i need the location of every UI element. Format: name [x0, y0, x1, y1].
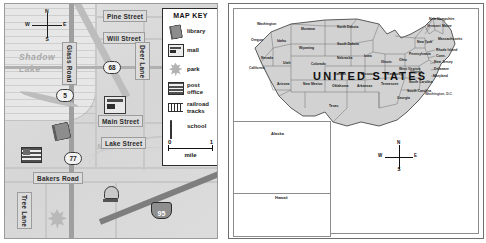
state-label-conn-: Conn.	[436, 54, 446, 58]
map-scale-bar: 0 1 mile	[167, 138, 214, 158]
route-shield-68: 68	[103, 61, 121, 74]
us-map-title: UNITED STATES	[313, 70, 427, 82]
state-label-utah: Utah	[283, 61, 291, 65]
scale-bar-graphic	[168, 145, 213, 151]
state-label-new-mexico: New Mexico	[303, 82, 322, 86]
route-shield-5: 5	[56, 89, 74, 102]
state-label-oregon: Oregon	[251, 38, 263, 42]
legend-entry-library: library	[167, 22, 214, 41]
state-label-washington: Washington	[257, 22, 276, 26]
state-label-illinois: Illinois	[381, 60, 392, 64]
town-map-compass-rose: N S W E	[27, 10, 67, 42]
bell-icon	[167, 119, 184, 135]
legend-entry-railroad-tracks: railroad tracks	[167, 98, 214, 117]
state-label-massachusetts: Massachusetts	[438, 37, 462, 41]
state-label-south-carolina: South Carolina	[407, 89, 431, 93]
state-label-nebraska: Nebraska	[337, 56, 352, 60]
railroad-tracks-icon	[167, 100, 184, 116]
shadow-lake-label: Shadow Lake	[19, 51, 55, 75]
state-label-montana: Montana	[301, 27, 315, 31]
post-office-icon	[21, 147, 42, 163]
scale-unit-label: mile	[167, 152, 214, 158]
legend-entry-post-office: post office	[167, 79, 214, 98]
compass-vertical-bar	[47, 13, 48, 38]
compass-east-label: E	[414, 153, 417, 158]
state-label-iowa: Iowa	[364, 54, 372, 58]
state-label-tennessee: Tennessee	[381, 82, 398, 86]
inset-label-hawaii: Hawaii	[275, 196, 288, 200]
state-label-arizona: Arizona	[277, 82, 289, 86]
state-label-pennsylvania: Pennsylvania	[409, 52, 431, 56]
legend-label-line2: office	[187, 89, 203, 95]
state-label-colorado: Colorado	[311, 62, 326, 66]
state-label-nevada: Nevada	[261, 56, 273, 60]
street-label-main-street: Main Street	[98, 115, 143, 127]
legend-entry-school: school	[167, 117, 214, 136]
legend-label-railroad-tracks: railroad tracks	[187, 101, 209, 115]
state-label-texas: Texas	[329, 104, 338, 108]
legend-label-mall: mall	[187, 47, 199, 54]
street-label-bakers-road: Bakers Road	[33, 172, 83, 184]
bell-icon	[104, 186, 118, 201]
state-label-new-jersey: New Jersey	[434, 60, 453, 64]
state-label-new-york: New York	[417, 40, 432, 44]
inset-label-alaska: Alaska	[271, 132, 284, 136]
state-label-ohio: Ohio	[399, 58, 407, 62]
lake-label-line1: Shadow	[19, 51, 55, 63]
legend-entry-mall: mall	[167, 41, 214, 60]
state-label-idaho: Idaho	[277, 39, 286, 43]
state-label-maryland: Maryland	[433, 74, 448, 78]
mall-roof-stripe	[107, 99, 123, 102]
book-icon	[167, 24, 184, 40]
street-label-deer-lane: Deer Lane	[135, 42, 150, 80]
legend-label-school: school	[187, 123, 206, 130]
state-label-north-dakota: North Dakota	[337, 25, 358, 29]
state-label-vermont: Vermont	[427, 24, 441, 28]
street-label-tree-lane: Tree Lane	[17, 192, 32, 229]
legend-label-line2: tracks	[187, 108, 205, 114]
legend-label-post-office: post office	[187, 82, 203, 96]
glass-road-roadway	[69, 4, 74, 239]
route-shield-77: 77	[64, 152, 82, 165]
mall-icon	[167, 43, 184, 59]
compass-east-label: E	[63, 21, 66, 27]
compass-north-label: N	[45, 8, 49, 14]
lake-label-line2: Lake	[19, 63, 55, 75]
compass-west-label: W	[25, 21, 30, 27]
legend-label-line1: post	[187, 82, 200, 88]
state-label-arkansas: Arkansas	[357, 84, 372, 88]
state-label-new-hampshire: New Hampshire	[429, 17, 454, 21]
legend-label-library: library	[187, 28, 205, 35]
mall-icon	[104, 96, 126, 114]
leaf-icon	[167, 62, 184, 78]
two-map-figure: Shadow Lake N S W E	[0, 0, 486, 243]
interstate-shield-95: 95	[151, 202, 172, 219]
state-label-california: California	[249, 66, 265, 70]
mall-door-block	[107, 104, 115, 109]
legend-label-line1: railroad	[187, 101, 209, 107]
state-label-rhode-island: Rhode Island	[436, 48, 457, 52]
state-label-oklahoma: Oklahoma	[332, 84, 348, 88]
bell-base	[103, 199, 118, 202]
compass-south-label: S	[46, 36, 49, 42]
street-label-glass-road: Glass Road	[62, 42, 77, 85]
bell-dome	[104, 186, 119, 199]
state-label-georgia: Georgia	[397, 96, 410, 100]
street-label-pine-street: Pine Street	[103, 10, 147, 22]
compass-south-label: S	[398, 167, 401, 172]
post-office-icon	[167, 81, 184, 97]
compass-west-label: W	[378, 153, 382, 158]
book-icon	[51, 121, 71, 141]
state-label-wyoming: Wyoming	[299, 46, 314, 50]
us-map-compass-rose: N S W E	[381, 143, 417, 173]
united-states-map: UNITED STATES Alaska Hawaii Washington, …	[228, 3, 484, 239]
town-street-map: Shadow Lake N S W E	[4, 3, 218, 239]
state-label-south-dakota: South Dakota	[337, 42, 359, 46]
map-key-legend: MAP KEY library mall park post office	[162, 8, 218, 166]
legend-label-park: park	[187, 66, 200, 73]
compass-north-label: N	[397, 140, 400, 145]
map-key-title: MAP KEY	[167, 12, 214, 19]
legend-entry-park: park	[167, 60, 214, 79]
block-line	[45, 181, 47, 239]
compass-vertical-bar	[399, 145, 400, 169]
